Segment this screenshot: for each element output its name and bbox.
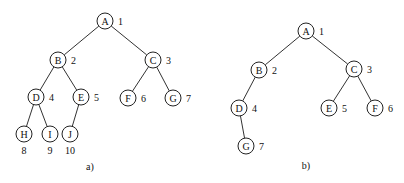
- node-number: 1: [319, 26, 324, 37]
- edge-c-e: [333, 76, 349, 102]
- node-label: J: [68, 129, 72, 140]
- node-d: D4: [231, 100, 257, 116]
- node-number: 6: [388, 103, 393, 114]
- node-label: H: [20, 129, 27, 140]
- node-number: 1: [118, 16, 123, 27]
- node-label: G: [169, 93, 176, 104]
- edge-b-d: [40, 67, 54, 90]
- node-g: G7: [165, 90, 191, 106]
- binary-tree-diagrams: A1B2C3D4E5F6G7H8I9J10a) A1B2C3D4E5F6G7b): [0, 0, 404, 183]
- node-label: B: [256, 65, 263, 76]
- node-label: F: [125, 93, 131, 104]
- node-label: E: [78, 92, 84, 103]
- node-label: I: [48, 129, 51, 140]
- edge-d-g: [240, 116, 244, 138]
- node-number: 10: [65, 145, 75, 156]
- node-label: E: [326, 103, 332, 114]
- edge-a-c: [111, 26, 147, 55]
- edge-d-i: [39, 104, 47, 126]
- caption-b: b): [302, 160, 310, 172]
- node-label: G: [242, 141, 249, 152]
- node-label: A: [302, 26, 310, 37]
- node-number: 5: [342, 103, 347, 114]
- node-e: E5: [73, 89, 99, 105]
- edge-c-f: [132, 67, 148, 92]
- node-f: F6: [367, 100, 393, 116]
- node-label: B: [55, 55, 62, 66]
- node-h: H8: [16, 126, 32, 156]
- node-number: 6: [141, 93, 146, 104]
- node-label: D: [235, 103, 242, 114]
- node-number: 9: [48, 145, 53, 156]
- node-e: E5: [321, 100, 347, 116]
- node-number: 4: [252, 103, 257, 114]
- node-number: 3: [166, 55, 171, 66]
- tree-b-binary-tree: A1B2C3D4E5F6G7b): [231, 23, 393, 172]
- edge-a-c: [312, 36, 347, 64]
- node-i: I9: [42, 126, 58, 156]
- node-number: 8: [22, 145, 27, 156]
- caption-a: a): [86, 161, 94, 173]
- node-number: 3: [367, 64, 372, 75]
- node-label: F: [372, 103, 378, 114]
- edge-d-h: [26, 105, 33, 127]
- node-label: D: [32, 92, 39, 103]
- edge-b-e: [62, 67, 77, 90]
- node-number: 2: [272, 65, 277, 76]
- node-label: A: [101, 16, 109, 27]
- node-c: C3: [346, 61, 372, 77]
- node-number: 5: [94, 92, 99, 103]
- node-a: A1: [97, 13, 123, 29]
- node-number: 7: [259, 141, 264, 152]
- node-f: F6: [120, 90, 146, 106]
- node-j: J10: [62, 126, 78, 156]
- node-d: D4: [28, 89, 54, 105]
- node-g: G7: [238, 138, 264, 154]
- node-label: C: [351, 64, 358, 75]
- edge-c-f: [358, 76, 371, 101]
- node-c: C3: [145, 52, 171, 68]
- edge-c-g: [157, 67, 170, 91]
- node-b: B2: [50, 52, 76, 68]
- edge-e-j: [72, 105, 78, 127]
- node-number: 7: [186, 93, 191, 104]
- node-number: 4: [49, 92, 54, 103]
- edge-a-b: [64, 26, 99, 55]
- edge-a-b: [265, 36, 300, 65]
- edge-b-d: [243, 77, 256, 101]
- node-a: A1: [298, 23, 324, 39]
- node-b: B2: [251, 62, 277, 78]
- node-number: 2: [71, 55, 76, 66]
- tree-a-complete-binary-tree: A1B2C3D4E5F6G7H8I9J10a): [16, 13, 191, 173]
- node-label: C: [150, 55, 157, 66]
